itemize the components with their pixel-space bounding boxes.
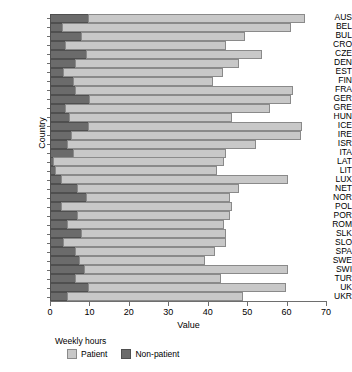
x-tick-mark — [247, 302, 248, 306]
bar-segment-patient — [88, 283, 286, 292]
y-tick-mark — [47, 225, 50, 226]
bar-row — [50, 265, 288, 274]
bar-segment-patient — [55, 166, 217, 175]
x-axis-title: Value — [50, 320, 327, 330]
bar-row — [50, 68, 223, 77]
bar-segment-non-patient — [50, 184, 78, 193]
bar-segment-non-patient — [50, 247, 76, 256]
bar-row — [50, 32, 245, 41]
bar-segment-non-patient — [50, 256, 80, 265]
y-tick-mark — [47, 135, 50, 136]
bar-segment-non-patient — [50, 238, 64, 247]
y-tick-mark — [47, 234, 50, 235]
bar-row — [50, 122, 302, 131]
legend: Weekly hours Patient Non-patient — [55, 336, 193, 359]
bar-segment-patient — [77, 211, 231, 220]
x-tick-mark — [89, 302, 90, 306]
bar-segment-patient — [75, 274, 221, 283]
bar-row — [50, 131, 301, 140]
bar-segment-patient — [77, 184, 239, 193]
bar-segment-non-patient — [50, 211, 78, 220]
x-tick-mark — [208, 302, 209, 306]
bar-segment-non-patient — [50, 283, 89, 292]
bar-segment-patient — [73, 77, 213, 86]
y-tick-mark — [47, 45, 50, 46]
x-tick-mark — [168, 302, 169, 306]
bar-segment-patient — [88, 122, 302, 131]
y-tick-mark — [47, 279, 50, 280]
bar-segment-non-patient — [50, 59, 76, 68]
legend-swatch-non-patient — [121, 349, 131, 359]
y-tick-label: UKR — [308, 292, 352, 301]
bar-segment-patient — [81, 32, 245, 41]
bar-segment-patient — [75, 247, 215, 256]
legend-entry-non-patient: Non-patient — [121, 349, 179, 359]
bar-row — [50, 59, 239, 68]
legend-items: Patient Non-patient — [55, 349, 193, 359]
legend-entry-patient: Patient — [67, 349, 107, 359]
chart-figure: Country Value Weekly hours Patient Non-p… — [0, 0, 352, 372]
bar-segment-non-patient — [50, 140, 68, 149]
x-tick-label: 70 — [311, 307, 341, 317]
bar-segment-patient — [61, 202, 233, 211]
bar-segment-patient — [88, 14, 305, 23]
bar-segment-patient — [81, 229, 226, 238]
y-tick-mark — [47, 180, 50, 181]
y-tick-mark — [47, 270, 50, 271]
x-tick-label: 30 — [153, 307, 183, 317]
bar-segment-non-patient — [50, 50, 87, 59]
bar-row — [50, 193, 230, 202]
bar-row — [50, 14, 305, 23]
bar-segment-non-patient — [50, 220, 68, 229]
bar-segment-patient — [84, 265, 287, 274]
bar-row — [50, 50, 262, 59]
bar-segment-non-patient — [50, 86, 76, 95]
bar-segment-non-patient — [50, 41, 66, 50]
y-tick-mark — [47, 90, 50, 91]
bar-row — [50, 113, 232, 122]
bar-segment-patient — [79, 256, 205, 265]
bar-segment-patient — [62, 23, 291, 32]
y-tick-mark — [47, 18, 50, 19]
bar-row — [50, 247, 215, 256]
legend-label-patient: Patient — [81, 349, 107, 359]
y-tick-mark — [47, 117, 50, 118]
bar-segment-non-patient — [50, 149, 74, 158]
bar-row — [50, 41, 226, 50]
y-tick-mark — [47, 216, 50, 217]
y-tick-mark — [47, 153, 50, 154]
bar-segment-patient — [63, 68, 223, 77]
bar-segment-patient — [86, 193, 230, 202]
bar-segment-non-patient — [50, 68, 64, 77]
y-tick-mark — [47, 288, 50, 289]
y-tick-mark — [47, 99, 50, 100]
bar-row — [50, 256, 205, 265]
bar-segment-patient — [75, 59, 239, 68]
bar-row — [50, 229, 226, 238]
bar-segment-non-patient — [50, 193, 87, 202]
x-tick-label: 60 — [272, 307, 302, 317]
bar-row — [50, 166, 217, 175]
bar-segment-non-patient — [50, 113, 70, 122]
bar-segment-patient — [73, 149, 227, 158]
y-tick-mark — [47, 207, 50, 208]
bar-row — [50, 95, 291, 104]
y-tick-mark — [47, 162, 50, 163]
y-tick-mark — [47, 72, 50, 73]
bar-row — [50, 238, 226, 247]
y-tick-mark — [47, 108, 50, 109]
x-tick-label: 50 — [232, 307, 262, 317]
y-tick-mark — [47, 54, 50, 55]
bar-row — [50, 23, 291, 32]
bar-segment-non-patient — [50, 14, 89, 23]
bar-segment-non-patient — [50, 77, 74, 86]
y-tick-mark — [47, 27, 50, 28]
y-tick-mark — [47, 243, 50, 244]
bar-segment-patient — [63, 238, 227, 247]
x-tick-mark — [326, 302, 327, 306]
bar-segment-non-patient — [50, 229, 82, 238]
bar-row — [50, 211, 230, 220]
legend-title: Weekly hours — [55, 336, 193, 346]
bar-segment-patient — [53, 157, 225, 166]
bar-row — [50, 77, 213, 86]
